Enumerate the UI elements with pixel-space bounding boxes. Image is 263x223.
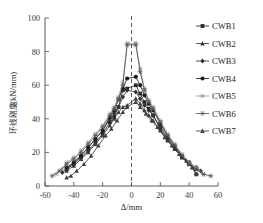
legend-item-cwb1[interactable]: CWB1: [196, 21, 236, 31]
legend-label: CWB2: [212, 39, 236, 49]
x-tick-label: 60: [214, 191, 222, 200]
data-point-marker: [138, 83, 142, 87]
data-point-marker: [200, 59, 204, 64]
legend-label: CWB5: [212, 91, 236, 101]
legend-item-cwb2[interactable]: CWB2: [196, 39, 236, 49]
x-tick-label: 0: [129, 191, 133, 200]
stiffness-degradation-chart: 020406080100-60-40-200204060Δ/mm环线刚度/(kN…: [0, 0, 263, 223]
data-point-marker: [208, 174, 213, 179]
series-cwb7: [64, 100, 198, 180]
data-point-marker: [200, 76, 204, 80]
data-point-marker: [138, 92, 142, 96]
x-tick-label: 20: [156, 191, 164, 200]
legend-item-cwb3[interactable]: CWB3: [196, 56, 236, 66]
y-tick-label: 0: [36, 182, 40, 191]
legend-label: CWB7: [212, 126, 237, 136]
x-axis-title: Δ/mm: [121, 202, 143, 212]
y-tick-label: 40: [32, 115, 40, 124]
legend-item-cwb4[interactable]: CWB4: [196, 74, 237, 84]
legend-item-cwb6[interactable]: CWB6: [196, 109, 237, 119]
data-point-marker: [134, 75, 138, 79]
data-point-marker: [200, 111, 205, 116]
legend-item-cwb7[interactable]: CWB7: [196, 126, 237, 136]
x-tick-label: -40: [68, 191, 79, 200]
legend-label: CWB4: [212, 74, 237, 84]
legend-item-cwb5[interactable]: CWB5: [196, 91, 236, 101]
data-point-marker: [134, 83, 138, 87]
y-tick-label: 20: [32, 148, 40, 157]
legend-label: CWB1: [212, 21, 236, 31]
legend-label: CWB3: [212, 56, 236, 66]
legend-label: CWB6: [212, 109, 237, 119]
x-tick-label: 40: [185, 191, 193, 200]
chart-canvas: 020406080100-60-40-200204060Δ/mm环线刚度/(kN…: [0, 0, 263, 223]
y-tick-label: 80: [32, 48, 40, 57]
data-point-marker: [200, 94, 205, 99]
y-axis-title-unit: /(kN/mm): [8, 72, 18, 107]
x-tick-label: -20: [97, 191, 108, 200]
data-point-marker: [201, 24, 205, 28]
y-tick-label: 100: [27, 14, 40, 23]
data-point-marker: [125, 76, 129, 80]
x-tick-label: -60: [39, 191, 50, 200]
y-tick-label: 60: [32, 81, 40, 90]
